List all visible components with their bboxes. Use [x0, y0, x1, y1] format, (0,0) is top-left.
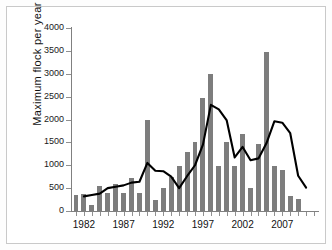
- x-tick-mark: [266, 212, 267, 216]
- bar: [256, 144, 261, 211]
- chart-figure: Maximum flock per year 05001000150020002…: [0, 0, 332, 250]
- x-tick-mark: [211, 212, 212, 216]
- x-tick-mark: [235, 212, 236, 216]
- bar: [137, 193, 142, 211]
- x-tick-mark: [124, 212, 125, 216]
- x-tick-label: 1992: [143, 219, 183, 230]
- bar: [89, 205, 94, 211]
- x-tick-mark: [306, 212, 307, 216]
- y-tick-label: 1000: [20, 160, 64, 169]
- x-tick-mark: [258, 212, 259, 216]
- x-tick-mark: [219, 212, 220, 216]
- bar: [177, 166, 182, 211]
- x-tick-mark: [227, 212, 228, 216]
- plot-area: [72, 28, 318, 211]
- bar: [208, 74, 213, 211]
- bar: [153, 200, 158, 211]
- bar: [121, 193, 126, 211]
- x-tick-label: 1982: [64, 219, 104, 230]
- x-tick-mark: [92, 212, 93, 216]
- x-tick-mark: [155, 212, 156, 216]
- x-tick-mark: [139, 212, 140, 216]
- x-tick-mark: [195, 212, 196, 216]
- bar: [280, 170, 285, 211]
- bar: [288, 196, 293, 211]
- x-tick-mark: [171, 212, 172, 216]
- bar: [216, 166, 221, 211]
- y-tick-mark: [66, 165, 71, 166]
- y-tick-label: 3000: [20, 69, 64, 78]
- bar: [145, 120, 150, 211]
- x-tick-mark: [116, 212, 117, 216]
- y-tick-label: 4000: [20, 23, 64, 32]
- bar: [97, 186, 102, 211]
- bar: [272, 166, 277, 211]
- bar: [248, 188, 253, 211]
- y-tick-mark: [66, 28, 71, 29]
- bar: [240, 134, 245, 211]
- y-tick-label: 3500: [20, 46, 64, 55]
- x-tick-mark: [84, 212, 85, 216]
- y-tick-label: 500: [20, 183, 64, 192]
- bar: [264, 52, 269, 211]
- y-tick-mark: [66, 97, 71, 98]
- bar: [161, 188, 166, 211]
- bar: [232, 166, 237, 211]
- y-tick-label: 2000: [20, 115, 64, 124]
- y-tick-mark: [66, 142, 71, 143]
- y-tick-mark: [66, 74, 71, 75]
- x-tick-mark: [290, 212, 291, 216]
- y-tick-label: 0: [20, 206, 64, 215]
- bar: [185, 152, 190, 211]
- bar: [224, 142, 229, 211]
- bar: [74, 195, 79, 211]
- x-tick-mark: [203, 212, 204, 216]
- x-tick-mark: [274, 212, 275, 216]
- bar: [129, 178, 134, 211]
- bar: [200, 98, 205, 211]
- x-tick-mark: [251, 212, 252, 216]
- x-tick-mark: [179, 212, 180, 216]
- bar: [169, 177, 174, 211]
- y-tick-label: 1500: [20, 137, 64, 146]
- x-tick-mark: [298, 212, 299, 216]
- x-tick-mark: [187, 212, 188, 216]
- x-tick-mark: [108, 212, 109, 216]
- bar: [105, 193, 110, 211]
- y-tick-mark: [66, 211, 71, 212]
- x-tick-mark: [163, 212, 164, 216]
- y-tick-mark: [66, 188, 71, 189]
- y-tick-label: 2500: [20, 92, 64, 101]
- x-tick-mark: [147, 212, 148, 216]
- bar: [193, 142, 198, 211]
- y-tick-mark: [66, 120, 71, 121]
- x-tick-label: 2002: [223, 219, 263, 230]
- x-tick-mark: [282, 212, 283, 216]
- x-tick-mark: [132, 212, 133, 216]
- bar: [81, 194, 86, 211]
- bar: [296, 199, 301, 211]
- x-tick-mark: [76, 212, 77, 216]
- bar: [113, 184, 118, 211]
- y-tick-mark: [66, 51, 71, 52]
- x-tick-mark: [243, 212, 244, 216]
- x-tick-label: 2007: [262, 219, 302, 230]
- x-tick-mark: [314, 212, 315, 216]
- x-tick-label: 1997: [183, 219, 223, 230]
- x-tick-label: 1987: [104, 219, 144, 230]
- x-tick-mark: [100, 212, 101, 216]
